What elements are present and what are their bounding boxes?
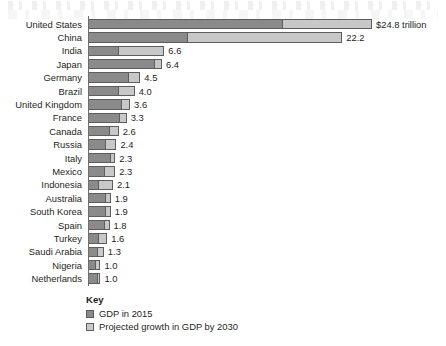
category-label: United Kingdom bbox=[0, 98, 82, 111]
bar-value-label: 1.9 bbox=[115, 192, 128, 205]
bar-segment-gdp-2015 bbox=[89, 206, 106, 216]
bar-value-label: 2.6 bbox=[123, 125, 136, 138]
bar-value-label: 22.2 bbox=[346, 31, 364, 44]
bar-row: Japan6.4 bbox=[0, 58, 446, 71]
category-label: Mexico bbox=[0, 165, 82, 178]
bar-value-label: 2.1 bbox=[117, 178, 130, 191]
bar-row: United States$24.8 trillion bbox=[0, 18, 446, 31]
category-label: Canada bbox=[0, 125, 82, 138]
bar-value-label: 3.6 bbox=[134, 98, 147, 111]
bar-segment-gdp-2015 bbox=[89, 139, 106, 149]
key-swatch-icon bbox=[86, 310, 94, 318]
key-entry-label: GDP in 2015 bbox=[99, 308, 153, 320]
bar-track bbox=[89, 46, 164, 56]
bar-segment-gdp-2015 bbox=[89, 153, 111, 163]
bar-value-label: 1.6 bbox=[111, 232, 124, 245]
bar-track bbox=[89, 32, 342, 42]
bar-segment-gdp-2015 bbox=[89, 72, 129, 82]
key-entry: GDP in 2015 bbox=[86, 308, 416, 320]
bar-segment-gdp-2015 bbox=[89, 233, 99, 243]
bar-row: Canada2.6 bbox=[0, 125, 446, 138]
bar-track bbox=[89, 113, 127, 123]
bar-row: Australia1.9 bbox=[0, 192, 446, 205]
category-label: France bbox=[0, 111, 82, 124]
bar-row: Indonesia2.1 bbox=[0, 178, 446, 191]
bar-track bbox=[89, 59, 162, 69]
bar-value-label: 6.4 bbox=[166, 58, 179, 71]
bar-track bbox=[89, 220, 110, 230]
bar-row: Turkey1.6 bbox=[0, 232, 446, 245]
bar-track bbox=[89, 166, 115, 176]
bar-row: South Korea1.9 bbox=[0, 205, 446, 218]
bar-track bbox=[89, 206, 111, 216]
category-label: Spain bbox=[0, 219, 82, 232]
bar-track bbox=[89, 86, 135, 96]
bar-track bbox=[89, 126, 119, 136]
bar-segment-gdp-2015 bbox=[89, 86, 119, 96]
bar-segment-gdp-2015 bbox=[89, 99, 122, 109]
bar-track bbox=[89, 247, 104, 257]
bar-segment-gdp-2015 bbox=[89, 113, 120, 123]
bar-track bbox=[89, 139, 116, 149]
category-label: Saudi Arabia bbox=[0, 245, 82, 258]
key-entry: Projected growth in GDP by 2030 bbox=[86, 321, 416, 333]
bar-row: India6.6 bbox=[0, 44, 446, 57]
bar-row: France3.3 bbox=[0, 111, 446, 124]
category-label: Nigeria bbox=[0, 259, 82, 272]
bar-segment-gdp-2015 bbox=[89, 193, 106, 203]
category-label: Australia bbox=[0, 192, 82, 205]
bar-row: Germany4.5 bbox=[0, 71, 446, 84]
bar-row: Brazil4.0 bbox=[0, 85, 446, 98]
category-label: United States bbox=[0, 18, 82, 31]
key-entry-label: Projected growth in GDP by 2030 bbox=[99, 321, 238, 333]
gdp-projection-bar-chart: United States$24.8 trillionChina22.2Indi… bbox=[0, 0, 446, 346]
bar-track bbox=[89, 260, 100, 270]
bar-row: China22.2 bbox=[0, 31, 446, 44]
category-label: Brazil bbox=[0, 85, 82, 98]
bar-track bbox=[89, 180, 113, 190]
category-label: South Korea bbox=[0, 205, 82, 218]
bar-value-label: 1.3 bbox=[108, 245, 121, 258]
bar-value-label: 4.0 bbox=[139, 85, 152, 98]
bar-value-label: 4.5 bbox=[144, 71, 157, 84]
bar-segment-gdp-2015 bbox=[89, 247, 98, 257]
category-label: Russia bbox=[0, 138, 82, 151]
category-label: Japan bbox=[0, 58, 82, 71]
category-label: India bbox=[0, 44, 82, 57]
category-label: Indonesia bbox=[0, 178, 82, 191]
bar-value-label: 1.8 bbox=[114, 219, 127, 232]
bar-segment-gdp-2015 bbox=[89, 59, 155, 69]
category-label: China bbox=[0, 31, 82, 44]
chart-key: Key GDP in 2015Projected growth in GDP b… bbox=[86, 294, 416, 334]
category-label: Italy bbox=[0, 152, 82, 165]
scan-bleed-artifact bbox=[8, 1, 438, 10]
bar-value-label: $24.8 trillion bbox=[376, 18, 427, 31]
category-label: Turkey bbox=[0, 232, 82, 245]
bar-track bbox=[89, 99, 130, 109]
bar-row: Nigeria1.0 bbox=[0, 259, 446, 272]
bar-value-label: 6.6 bbox=[168, 44, 181, 57]
bar-segment-gdp-2015 bbox=[89, 166, 105, 176]
bar-value-label: 1.0 bbox=[104, 272, 117, 285]
bar-track bbox=[89, 233, 107, 243]
bar-value-label: 2.4 bbox=[120, 138, 133, 151]
bar-row: Mexico2.3 bbox=[0, 165, 446, 178]
plot-area: United States$24.8 trillionChina22.2Indi… bbox=[0, 16, 446, 288]
bar-value-label: 2.3 bbox=[119, 152, 132, 165]
bar-segment-gdp-2015 bbox=[89, 220, 105, 230]
bar-segment-gdp-2015 bbox=[89, 19, 283, 29]
bar-row: Spain1.8 bbox=[0, 219, 446, 232]
key-title: Key bbox=[86, 294, 416, 305]
bar-track bbox=[89, 273, 100, 283]
bar-value-label: 1.9 bbox=[115, 205, 128, 218]
bar-value-label: 3.3 bbox=[131, 111, 144, 124]
key-entries: GDP in 2015Projected growth in GDP by 20… bbox=[86, 308, 416, 333]
category-label: Netherlands bbox=[0, 272, 82, 285]
bar-segment-gdp-2015 bbox=[89, 126, 110, 136]
bar-track bbox=[89, 19, 372, 29]
bar-value-label: 2.3 bbox=[119, 165, 132, 178]
bar-segment-gdp-2015 bbox=[89, 260, 96, 270]
bar-segment-gdp-2015 bbox=[89, 46, 119, 56]
bar-segment-gdp-2015 bbox=[89, 32, 188, 42]
bar-row: Russia2.4 bbox=[0, 138, 446, 151]
